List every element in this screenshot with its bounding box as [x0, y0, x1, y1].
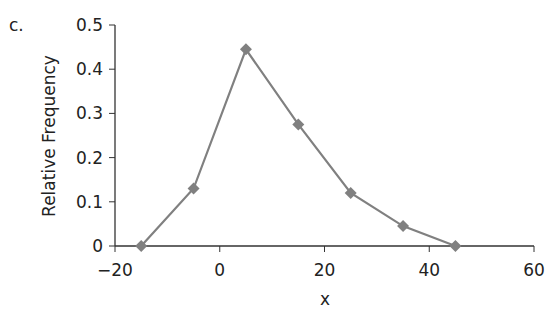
x-tick-label: 0 [214, 260, 225, 280]
diamond-marker [397, 220, 409, 232]
x-tick-label: 20 [314, 260, 336, 280]
series-line [141, 49, 455, 246]
y-tick-label: 0.5 [76, 15, 103, 35]
x-tick-label: 60 [523, 260, 545, 280]
y-tick-label: 0 [92, 236, 103, 256]
y-axis-title: Relative Frequency [39, 55, 59, 217]
y-tick-label: 0.1 [76, 192, 103, 212]
y-tick-label: 0.3 [76, 103, 103, 123]
y-tick-label: 0.4 [76, 59, 103, 79]
line-chart: −20020406000.10.20.30.40.5 x Relative Fr… [0, 0, 550, 320]
diamond-marker [449, 240, 461, 252]
y-tick-label: 0.2 [76, 148, 103, 168]
plot-series [135, 43, 461, 252]
x-axis-title: x [320, 289, 330, 309]
x-tick-label: 40 [418, 260, 440, 280]
x-tick-label: −20 [97, 260, 133, 280]
